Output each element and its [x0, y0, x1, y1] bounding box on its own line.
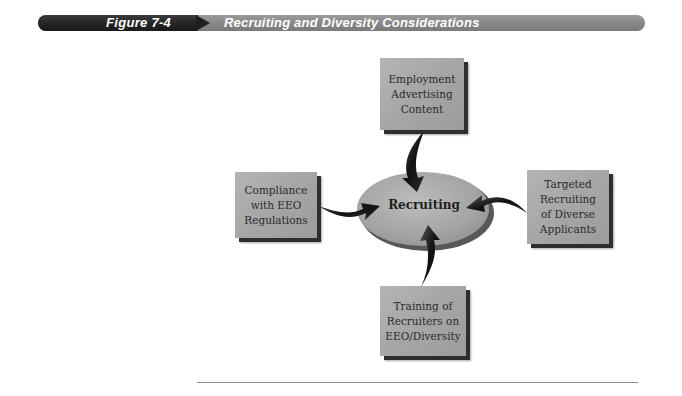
node-text-line: EEO/Diversity: [385, 329, 460, 344]
center-ellipse-shadow: [360, 175, 494, 251]
node-text-line: with EEO: [244, 198, 307, 213]
node-text-line: of Diverse: [540, 207, 596, 222]
arrow-bottom-icon: [420, 225, 440, 287]
node-targeted-recruiting-of-diverse-applicants: Targeted Recruiting of Diverse Applicant…: [527, 170, 609, 244]
chevron-right-icon: [196, 15, 210, 31]
node-text-line: Applicants: [540, 222, 596, 237]
arrow-top-icon: [402, 131, 424, 192]
node-text-line: Recruiting: [540, 192, 596, 207]
node-text-line: Content: [388, 102, 455, 117]
bottom-divider: [197, 382, 638, 383]
figure-number: Figure 7-4: [106, 15, 171, 31]
node-text-line: Compliance: [244, 183, 307, 198]
figure-title: Recruiting and Diversity Considerations: [224, 15, 480, 31]
node-compliance-with-eeo-regulations: Compliance with EEO Regulations: [235, 172, 317, 238]
node-text-line: Employment: [388, 72, 455, 87]
node-training-of-recruiters-on-eeo-diversity: Training of Recruiters on EEO/Diversity: [380, 286, 466, 356]
node-text-line: Advertising: [388, 87, 455, 102]
node-text-line: Recruiters on: [385, 314, 460, 329]
figure-header: Figure 7-4 Recruiting and Diversity Cons…: [38, 15, 645, 31]
node-employment-advertising-content: Employment Advertising Content: [380, 58, 464, 130]
node-text-line: Training of: [385, 299, 460, 314]
node-text-line: Regulations: [244, 213, 307, 228]
center-node-label: Recruiting: [357, 198, 491, 212]
node-text-line: Targeted: [540, 177, 596, 192]
